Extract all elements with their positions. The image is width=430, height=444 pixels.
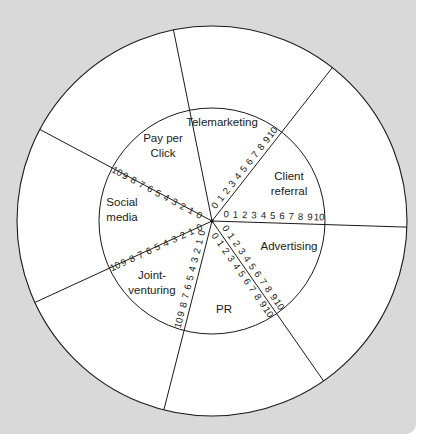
scale-tick-label: 1 bbox=[233, 209, 239, 220]
scale-tick-label: 4 bbox=[261, 210, 267, 221]
scale-tick-label: 5 bbox=[270, 210, 276, 221]
segment-label: Telemarketing bbox=[186, 116, 258, 128]
scale-tick-label: 3 bbox=[251, 209, 257, 220]
scale-tick-label: 6 bbox=[279, 210, 285, 221]
segment-label: venturing bbox=[128, 284, 175, 296]
segment-label: Pay per bbox=[143, 132, 183, 144]
segment-label: Advertising bbox=[261, 240, 318, 252]
wheel-diagram: 0123456789100123456789100123456789100123… bbox=[0, 0, 430, 444]
segment-label: media bbox=[106, 211, 138, 223]
center-dot bbox=[210, 219, 214, 223]
scale-tick-label: 0 bbox=[223, 208, 229, 219]
segment-label: Joint- bbox=[138, 269, 166, 281]
scale-tick-label: 8 bbox=[298, 211, 304, 222]
scale-tick-label: 10 bbox=[314, 211, 325, 222]
scale-tick-label: 2 bbox=[242, 209, 248, 220]
segment-label: PR bbox=[216, 303, 232, 315]
scale-tick-label: 7 bbox=[288, 210, 294, 221]
segment-label: Client bbox=[274, 170, 304, 182]
segment-label: referral bbox=[271, 185, 307, 197]
scale-tick-label: 9 bbox=[307, 211, 313, 222]
segment-label: Click bbox=[151, 147, 176, 159]
segment-label: Social bbox=[106, 196, 137, 208]
